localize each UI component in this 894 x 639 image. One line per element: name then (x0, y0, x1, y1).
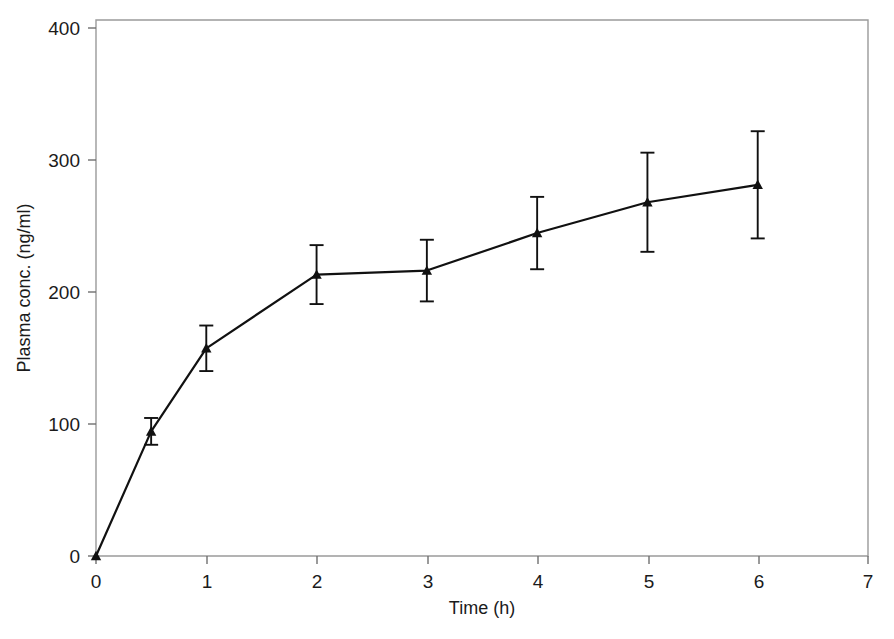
y-axis-title: Plasma conc. (ng/ml) (14, 203, 34, 372)
x-tick-label-4: 4 (533, 571, 544, 592)
x-tick-label-7: 7 (863, 571, 874, 592)
data-point-marker (201, 343, 211, 352)
y-tick-label-300: 300 (48, 150, 80, 171)
plasma-concentration-line-chart: 0 100 200 300 400 0 1 2 3 4 5 6 7 (0, 0, 894, 639)
x-axis-title: Time (h) (449, 598, 515, 618)
y-tick-label-200: 200 (48, 282, 80, 303)
plot-frame (96, 20, 868, 556)
x-tick-label-2: 2 (312, 571, 323, 592)
x-tick-label-0: 0 (91, 571, 102, 592)
x-tick-label-3: 3 (423, 571, 434, 592)
y-tick-label-0: 0 (69, 546, 80, 567)
x-axis-ticks (96, 556, 868, 564)
y-axis-ticks (88, 28, 96, 556)
y-axis-tick-labels: 0 100 200 300 400 (48, 18, 80, 567)
x-tick-label-5: 5 (644, 571, 655, 592)
x-tick-label-1: 1 (202, 571, 213, 592)
x-axis-tick-labels: 0 1 2 3 4 5 6 7 (91, 571, 874, 592)
x-tick-label-6: 6 (754, 571, 765, 592)
chart-figure: 0 100 200 300 400 0 1 2 3 4 5 6 7 (0, 0, 894, 639)
y-tick-label-100: 100 (48, 414, 80, 435)
error-bars-group (144, 131, 765, 445)
y-tick-label-400: 400 (48, 18, 80, 39)
